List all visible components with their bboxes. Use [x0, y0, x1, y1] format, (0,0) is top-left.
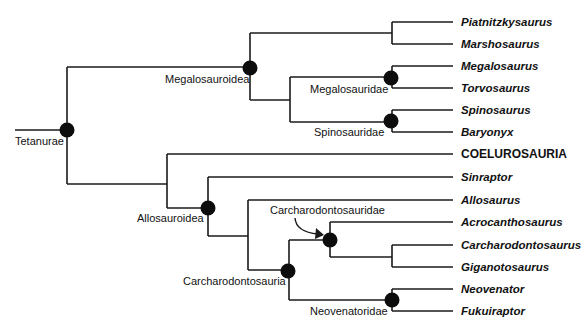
tip-coelurosauria: COELUROSAURIA [461, 147, 567, 161]
tip-acrocanthosaurus: Acrocanthosaurus [460, 216, 563, 228]
label-tetanurae: Tetanurae [15, 135, 64, 147]
tip-spinosaurus: Spinosaurus [461, 104, 531, 116]
label-allosauroidea: Allosauroidea [137, 212, 205, 224]
tip-carcharodontosaurus: Carcharodontosaurus [461, 239, 581, 251]
tip-labels: Piatnitzkysaurus Marshosaurus Megalosaur… [460, 16, 581, 317]
cladogram: Tetanurae Megalosauroidea Megalosauridae… [0, 0, 586, 327]
label-megalosauridae: Megalosauridae [310, 83, 388, 95]
carcharodontosauridae-arrow-icon [295, 218, 324, 239]
label-spinosauridae: Spinosauridae [314, 126, 384, 138]
tip-marshosaurus: Marshosaurus [461, 38, 540, 50]
label-carcharodontosauridae: Carcharodontosauridae [270, 204, 385, 216]
node-carcharodontosauridae [323, 233, 338, 248]
tip-torvosaurus: Torvosaurus [461, 82, 530, 94]
branches [15, 22, 453, 311]
tip-megalosaurus: Megalosaurus [461, 60, 538, 72]
tip-allosaurus: Allosaurus [460, 194, 520, 206]
label-neovenatoridae: Neovenatoridae [310, 305, 388, 317]
label-megalosauroidea: Megalosauroidea [165, 73, 250, 85]
tip-neovenator: Neovenator [461, 283, 525, 295]
label-carcharodontosauria: Carcharodontosauria [183, 275, 287, 287]
tip-piatnitzkysaurus: Piatnitzkysaurus [461, 16, 552, 28]
tip-sinraptor: Sinraptor [461, 171, 513, 183]
clade-labels: Tetanurae Megalosauroidea Megalosauridae… [15, 73, 388, 317]
tip-giganotosaurus: Giganotosaurus [461, 261, 549, 273]
node-spinosauridae [384, 114, 399, 129]
tip-fukuiraptor: Fukuiraptor [461, 305, 525, 317]
tip-baryonyx: Baryonyx [461, 126, 514, 138]
